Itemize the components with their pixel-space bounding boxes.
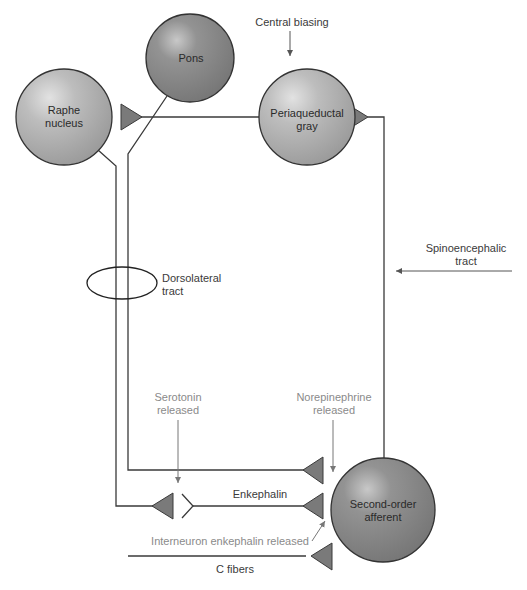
interneuron-enkephalin-label: Interneuron enkephalin released — [150, 535, 310, 548]
norepinephrine-line1: Norepinephrine — [292, 391, 376, 404]
raphe-synapse — [121, 104, 142, 130]
serotonin-released-label: Serotonin released — [148, 391, 208, 417]
interneuron-arrow — [312, 521, 325, 541]
pag-label-line1: Periaqueductal — [270, 107, 343, 120]
second-order-afferent-label: Second-order afferent — [350, 498, 417, 524]
dorsolateral-line1: Dorsolateral — [162, 272, 221, 285]
raphe-nucleus-label: Raphe nucleus — [45, 104, 83, 130]
norepinephrine-line2: released — [292, 404, 376, 417]
enkephalin-synapse — [303, 493, 323, 519]
spinoencephalic-line1: Spinoencephalic — [416, 242, 516, 255]
dorsolateral-tract-ellipse — [87, 267, 157, 299]
pons-synapse — [303, 457, 323, 484]
enkephalin-label: Enkephalin — [225, 488, 295, 501]
periaqueductal-gray-label: Periaqueductal gray — [270, 107, 343, 133]
serotonin-line1: Serotonin — [148, 391, 208, 404]
serotonin-synapse — [152, 493, 173, 519]
pag-label-line2: gray — [270, 120, 343, 133]
pons-label-line1: Pons — [178, 52, 203, 65]
spinoencephalic-line2: tract — [416, 255, 516, 268]
c-fiber-synapse — [311, 543, 332, 570]
serotonin-line2: released — [148, 404, 208, 417]
second-order-label-line1: Second-order — [350, 498, 417, 511]
pathway-diagram — [0, 0, 527, 590]
spinoencephalic-tract-label: Spinoencephalic tract — [416, 242, 516, 268]
dorsolateral-tract-label: Dorsolateral tract — [162, 272, 221, 298]
pons-label: Pons — [178, 52, 203, 65]
raphe-descending-tract — [98, 150, 154, 506]
central-biasing-label: Central biasing — [252, 16, 332, 29]
norepinephrine-released-label: Norepinephrine released — [292, 391, 376, 417]
second-order-label-line2: afferent — [350, 511, 417, 524]
interneuron-chevron — [182, 494, 193, 518]
raphe-label-line1: Raphe — [45, 104, 83, 117]
c-fibers-label: C fibers — [205, 563, 265, 576]
dorsolateral-line2: tract — [162, 285, 221, 298]
raphe-label-line2: nucleus — [45, 117, 83, 130]
